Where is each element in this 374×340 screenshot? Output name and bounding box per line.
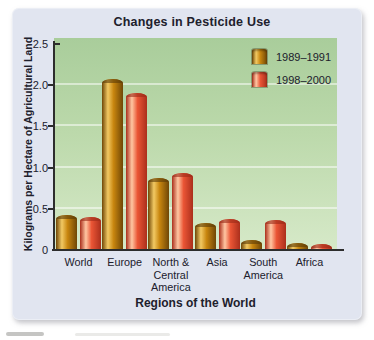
y-tick-label: 0 xyxy=(12,244,48,256)
figure-card: Changes in Pesticide Use Kilograms per H… xyxy=(12,8,362,320)
category-label: Asia xyxy=(195,256,240,294)
bar-group xyxy=(102,79,147,250)
category-labels: WorldEuropeNorth & Central AmericaAsiaSo… xyxy=(54,256,337,294)
y-tick-mark xyxy=(48,167,53,169)
y-tick-marks xyxy=(48,38,53,250)
y-tick-label: 1.0 xyxy=(12,162,48,174)
bar-cap xyxy=(311,244,332,248)
bar-1998-2000-north xyxy=(172,173,193,250)
bar-1989-1991-world xyxy=(56,215,77,250)
category-label: Europe xyxy=(102,256,147,294)
cropped-caption-remnant xyxy=(75,333,170,336)
y-axis-line xyxy=(53,41,55,251)
bar-1998-2000-asia xyxy=(219,219,240,250)
bar-cap xyxy=(265,220,286,224)
bar-cap xyxy=(148,178,169,182)
y-tick-label: 1.5 xyxy=(12,120,48,132)
bar-1989-1991-north xyxy=(148,178,169,251)
bar-cap xyxy=(126,93,147,97)
x-axis-line xyxy=(52,249,344,251)
page: { "figure": { "type": "scanned textbook … xyxy=(0,0,374,340)
y-tick-labels: 00.51.01.52.02.5 xyxy=(12,38,48,250)
category-label: South America xyxy=(241,256,286,294)
chart-title: Changes in Pesticide Use xyxy=(42,15,342,29)
bar-1989-1991-europe xyxy=(102,79,123,250)
bar-cap xyxy=(241,240,262,244)
bar-group xyxy=(241,220,286,250)
legend: 1989–1991 1998–2000 xyxy=(252,49,331,95)
y-tick-mark xyxy=(48,208,53,210)
cropped-caption-remnant xyxy=(6,332,44,336)
legend-item: 1998–2000 xyxy=(252,72,331,87)
y-tick-label: 2.0 xyxy=(12,79,48,91)
x-axis-title: Regions of the World xyxy=(54,296,337,310)
bar-1998-2000-europe xyxy=(126,93,147,250)
legend-swatch-1989-1991 xyxy=(252,49,267,64)
bar-group xyxy=(195,219,240,250)
legend-label: 1998–2000 xyxy=(276,74,331,86)
bar-1998-2000-world xyxy=(80,217,101,250)
y-tick-label: 2.5 xyxy=(12,38,48,50)
bar-cap xyxy=(219,219,240,223)
bar-cap xyxy=(56,215,77,219)
bar-group xyxy=(56,215,101,250)
legend-swatch-1998-2000 xyxy=(252,72,267,87)
y-tick-mark xyxy=(48,125,53,127)
bar-1989-1991-asia xyxy=(195,223,216,250)
bar-cap xyxy=(287,243,308,247)
plot-area: 1989–1991 1998–2000 xyxy=(54,38,337,250)
y-tick-label: 0.5 xyxy=(12,203,48,215)
bar-group xyxy=(148,173,193,250)
bar-1998-2000-south xyxy=(265,220,286,250)
legend-label: 1989–1991 xyxy=(276,51,331,63)
bar-cap xyxy=(80,217,101,221)
axis-corner-stub xyxy=(54,43,60,45)
legend-item: 1989–1991 xyxy=(252,49,331,64)
y-tick-mark xyxy=(48,84,53,86)
category-label: Africa xyxy=(287,256,332,294)
bar-cap xyxy=(195,223,216,227)
bar-cap xyxy=(102,79,123,83)
bar-cap xyxy=(172,173,193,177)
category-label: North & Central America xyxy=(148,256,193,294)
category-label: World xyxy=(56,256,101,294)
